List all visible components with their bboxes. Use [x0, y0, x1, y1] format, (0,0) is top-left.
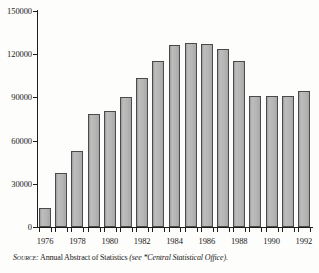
x-axis-tick — [180, 228, 181, 232]
bar — [152, 61, 164, 227]
x-axis-tick — [120, 228, 121, 232]
x-axis-tick — [100, 228, 101, 232]
bar — [120, 97, 132, 227]
x-axis-tick — [229, 228, 230, 232]
x-axis-tick — [201, 228, 202, 232]
x-axis-tick-label: 1980 — [101, 237, 118, 246]
bar — [71, 151, 83, 227]
y-axis-tick-label: 0 — [0, 223, 32, 232]
x-axis-tick-label: 1976 — [37, 237, 54, 246]
y-axis-tick-label: 150000 — [0, 7, 32, 16]
x-axis-tick — [104, 228, 105, 232]
x-axis-tick — [278, 228, 279, 232]
y-axis-tick-label: 30000 — [0, 180, 32, 189]
y-axis-tick-label: 120000 — [0, 50, 32, 59]
x-axis-tick — [67, 228, 68, 232]
x-axis-tick — [164, 228, 165, 232]
x-axis-tick — [132, 228, 133, 232]
bar — [233, 61, 245, 227]
x-axis-tick — [136, 228, 137, 232]
x-axis-tick — [249, 228, 250, 232]
x-axis-tick — [310, 228, 311, 232]
x-axis-tick — [261, 228, 262, 232]
source-note: Source: Annual Abstract of Statistics (s… — [13, 253, 228, 263]
x-axis-tick-label: 1988 — [231, 237, 248, 246]
x-axis-tick — [152, 228, 153, 232]
bar — [169, 45, 181, 227]
x-axis-line — [37, 227, 313, 228]
x-axis-tick — [51, 228, 52, 232]
source-paren-text: (see *Central Statistical Office). — [129, 253, 227, 262]
x-axis-tick-label: 1978 — [69, 237, 86, 246]
bar — [282, 96, 294, 227]
x-axis-tick — [55, 228, 56, 232]
x-axis-tick — [88, 228, 89, 232]
x-axis-tick — [213, 228, 214, 232]
x-axis-tick — [294, 228, 295, 232]
bar — [201, 44, 213, 227]
y-axis-tick-label: 60000 — [0, 137, 32, 146]
x-axis-tick — [197, 228, 198, 232]
x-axis-tick — [217, 228, 218, 232]
x-axis-tick — [245, 228, 246, 232]
bar — [88, 114, 100, 227]
bar — [104, 111, 116, 227]
x-axis-tick — [39, 228, 40, 232]
x-axis-tick — [83, 228, 84, 232]
source-label: Source: — [13, 253, 39, 262]
x-axis-tick-label: 1984 — [166, 237, 183, 246]
x-axis-tick — [148, 228, 149, 232]
bar-chart-figure: 0300006000090000120000150000 19761978198… — [0, 0, 319, 273]
x-axis-tick — [266, 228, 267, 232]
x-axis-tick — [282, 228, 283, 232]
x-axis-tick-label: 1990 — [263, 237, 280, 246]
x-axis-tick — [71, 228, 72, 232]
x-axis-tick-label: 1982 — [134, 237, 151, 246]
bar — [249, 96, 261, 227]
bar — [55, 173, 67, 227]
bar — [185, 43, 197, 227]
x-axis-tick — [298, 228, 299, 232]
x-axis-tick-label: 1992 — [296, 237, 313, 246]
bar — [136, 78, 148, 227]
bar — [39, 208, 51, 227]
x-axis-tick — [233, 228, 234, 232]
y-axis-tick-label: 90000 — [0, 93, 32, 102]
bar — [266, 96, 278, 227]
source-main-text: Annual Abstract of Statistics — [40, 253, 127, 262]
x-axis-tick — [116, 228, 117, 232]
y-axis-labels: 0300006000090000120000150000 — [0, 0, 32, 273]
plot-area — [37, 11, 312, 227]
x-axis-tick — [169, 228, 170, 232]
y-axis-tick — [33, 227, 38, 228]
x-axis-tick — [185, 228, 186, 232]
bar — [298, 91, 310, 227]
x-axis-tick-label: 1986 — [199, 237, 216, 246]
bar — [217, 49, 229, 227]
